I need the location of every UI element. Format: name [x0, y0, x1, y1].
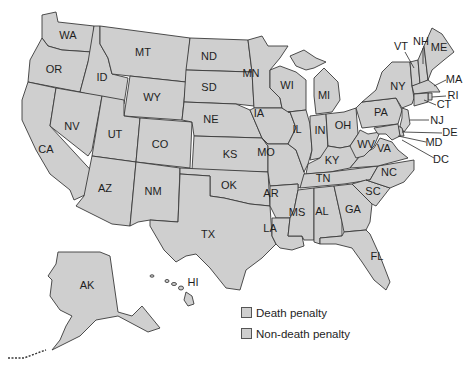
label-ms: MS [289, 206, 306, 218]
label-oh: OH [335, 119, 352, 131]
label-vt: VT [394, 40, 408, 52]
label-nv: NV [64, 120, 80, 132]
label-tn: TN [316, 172, 331, 184]
label-ct: CT [437, 98, 452, 110]
label-ut: UT [108, 128, 123, 140]
label-il: IL [292, 123, 301, 135]
label-in: IN [315, 124, 326, 136]
label-de: DE [442, 126, 457, 138]
label-wi: WI [280, 79, 293, 91]
label-mn: MN [242, 67, 259, 79]
state-hi-3[interactable] [172, 283, 177, 286]
state-ak[interactable] [48, 252, 160, 350]
us-map: WA OR CA ID NV MT WY UT CO AZ NM ND SD N… [0, 0, 467, 370]
state-ct[interactable] [414, 93, 428, 106]
legend-label-death-penalty: Death penalty [256, 307, 327, 319]
label-mo: MO [257, 146, 275, 158]
leader-md [398, 136, 426, 142]
label-ne: NE [203, 113, 218, 125]
label-ks: KS [223, 148, 238, 160]
label-nc: NC [381, 166, 397, 178]
legend: Death penalty Non-death penalty [241, 304, 350, 346]
label-fl: FL [371, 250, 384, 262]
legend-swatch-death-penalty [241, 307, 252, 318]
label-nd: ND [201, 50, 217, 62]
label-id: ID [97, 71, 108, 83]
label-ak: AK [80, 279, 95, 291]
label-wy: WY [143, 91, 161, 103]
label-ny: NY [390, 80, 406, 92]
label-ia: IA [254, 107, 265, 119]
label-ca: CA [38, 143, 54, 155]
label-or: OR [46, 63, 63, 75]
label-md: MD [425, 136, 442, 148]
label-sd: SD [201, 81, 216, 93]
leader-ma [434, 80, 446, 86]
legend-item-non-death-penalty: Non-death penalty [241, 325, 350, 342]
state-ne[interactable] [182, 102, 262, 138]
label-ky: KY [325, 154, 340, 166]
state-mi-up[interactable] [290, 50, 326, 70]
state-ak-chain [8, 350, 46, 358]
legend-swatch-non-death-penalty [241, 328, 252, 339]
label-al: AL [315, 205, 328, 217]
state-hi-2[interactable] [165, 280, 169, 283]
label-ar: AR [263, 187, 278, 199]
label-ga: GA [345, 203, 362, 215]
label-mi: MI [318, 89, 330, 101]
label-hi: HI [188, 276, 199, 288]
state-hi-4[interactable] [179, 286, 184, 290]
leader-ri [432, 96, 446, 97]
label-mt: MT [135, 46, 151, 58]
state-ri[interactable] [428, 93, 432, 100]
label-tx: TX [201, 228, 216, 240]
state-hi-1[interactable] [150, 275, 154, 277]
leader-de [402, 132, 442, 133]
label-wv: WV [357, 138, 375, 150]
label-nm: NM [144, 185, 161, 197]
label-nh: NH [413, 35, 429, 47]
label-va: VA [377, 142, 392, 154]
label-dc: DC [433, 153, 449, 165]
label-pa: PA [374, 106, 389, 118]
label-az: AZ [98, 182, 112, 194]
label-ok: OK [221, 179, 238, 191]
label-me: ME [431, 41, 448, 53]
label-sc: SC [365, 185, 380, 197]
state-hi-5[interactable] [184, 292, 194, 306]
label-la: LA [263, 222, 277, 234]
label-ma: MA [446, 73, 463, 85]
legend-label-non-death-penalty: Non-death penalty [256, 328, 350, 340]
legend-item-death-penalty: Death penalty [241, 304, 350, 321]
label-wa: WA [59, 29, 77, 41]
label-co: CO [152, 138, 169, 150]
label-nj: NJ [430, 114, 443, 126]
